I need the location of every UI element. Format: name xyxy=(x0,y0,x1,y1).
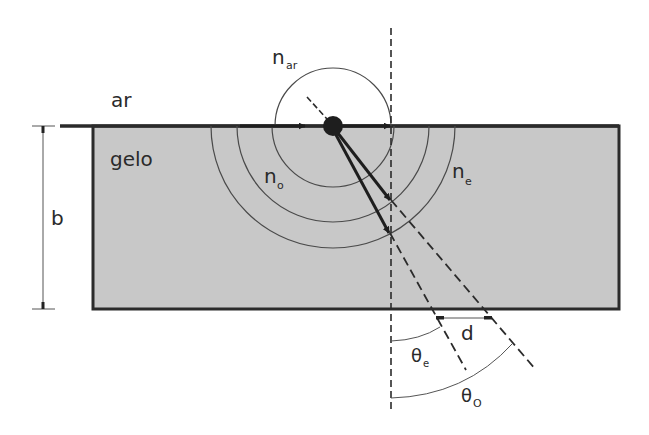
n-o-subscript: o xyxy=(277,179,284,192)
n-air-label: n xyxy=(272,45,285,69)
theta-e-label: θ xyxy=(411,345,422,366)
n-e-label: n xyxy=(452,159,465,183)
birefringence-diagram: ar gelo b n ar n o n e d θ e θ O xyxy=(0,0,649,435)
ice-label: gelo xyxy=(110,147,153,171)
air-label: ar xyxy=(111,88,132,112)
n-air-subscript: ar xyxy=(286,59,298,72)
theta-e-subscript: e xyxy=(423,358,429,369)
n-o-label: n xyxy=(264,164,277,188)
theta-o-arc xyxy=(391,343,513,398)
theta-o-subscript: O xyxy=(473,397,482,410)
n-e-subscript: e xyxy=(465,175,472,188)
theta-o-label: θ xyxy=(461,385,472,406)
theta-e-arc xyxy=(391,327,440,341)
source-dot xyxy=(323,116,343,136)
thickness-label: b xyxy=(51,206,64,230)
incident-dashed xyxy=(307,97,327,119)
displacement-label: d xyxy=(461,321,474,345)
ice-block xyxy=(93,126,619,309)
